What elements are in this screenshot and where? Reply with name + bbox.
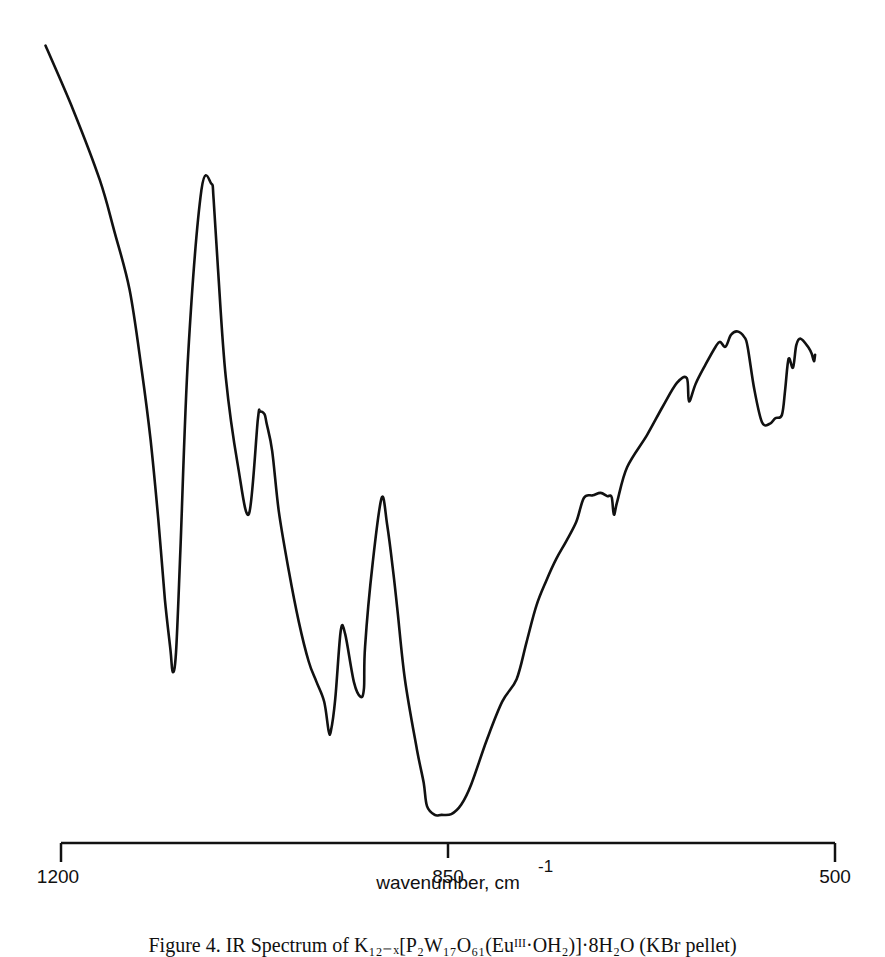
x-tick-label-1200: 1200 <box>37 866 79 888</box>
x-axis-label-superscript: -1 <box>538 857 553 877</box>
spectrum-line <box>46 46 816 816</box>
figure-caption: Figure 4. IR Spectrum of K₁₂₋ₓ[P₂W₁₇O₆₁(… <box>0 933 885 957</box>
x-tick-label-500: 500 <box>819 866 851 888</box>
x-axis-label: wavenumber, cm <box>376 872 520 894</box>
